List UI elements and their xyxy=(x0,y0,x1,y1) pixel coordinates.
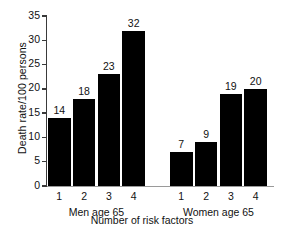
bar: 14 xyxy=(48,118,71,186)
bar: 32 xyxy=(122,31,145,186)
y-tick-label: 15 xyxy=(28,106,40,118)
y-tick-mark xyxy=(42,185,47,186)
bar: 9 xyxy=(195,142,218,186)
bar-value-label: 14 xyxy=(53,104,65,116)
x-tick-label: 4 xyxy=(253,190,259,202)
x-tick-label: 1 xyxy=(56,190,62,202)
bar-value-label: 20 xyxy=(250,75,262,87)
x-axis-title: Number of risk factors xyxy=(0,214,284,226)
bar-chart: Death rate/100 persons 05101520253035 14… xyxy=(0,0,284,237)
y-axis-title: Death rate/100 persons xyxy=(16,13,28,183)
bar: 23 xyxy=(98,74,121,186)
plot-area: 05101520253035 14182332791920 xyxy=(46,16,274,186)
y-tick-label: 30 xyxy=(28,33,40,45)
y-tick-mark xyxy=(42,40,47,41)
y-tick-mark xyxy=(42,64,47,65)
bar: 18 xyxy=(73,99,96,186)
x-tick-label: 2 xyxy=(81,190,87,202)
y-tick-label: 0 xyxy=(34,179,40,191)
bar-value-label: 7 xyxy=(178,138,184,150)
y-tick-label: 5 xyxy=(34,154,40,166)
x-tick-label: 2 xyxy=(203,190,209,202)
y-tick-mark xyxy=(42,88,47,89)
bar-value-label: 18 xyxy=(78,85,90,97)
bar-value-label: 19 xyxy=(225,80,237,92)
bar-value-label: 32 xyxy=(128,17,140,29)
y-tick-mark xyxy=(42,161,47,162)
y-tick-label: 20 xyxy=(28,81,40,93)
x-axis-line xyxy=(46,186,274,187)
y-tick-label: 25 xyxy=(28,57,40,69)
bar: 19 xyxy=(220,94,243,186)
x-tick-label: 4 xyxy=(131,190,137,202)
x-tick-label: 3 xyxy=(106,190,112,202)
bar-value-label: 9 xyxy=(203,128,209,140)
y-tick-mark xyxy=(42,112,47,113)
y-tick-label: 35 xyxy=(28,9,40,21)
y-tick-mark xyxy=(42,15,47,16)
bar-value-label: 23 xyxy=(103,60,115,72)
bar: 20 xyxy=(244,89,267,186)
x-tick-label: 3 xyxy=(228,190,234,202)
x-tick-label: 1 xyxy=(178,190,184,202)
bar: 7 xyxy=(170,152,193,186)
y-tick-mark xyxy=(42,137,47,138)
y-tick-label: 10 xyxy=(28,130,40,142)
